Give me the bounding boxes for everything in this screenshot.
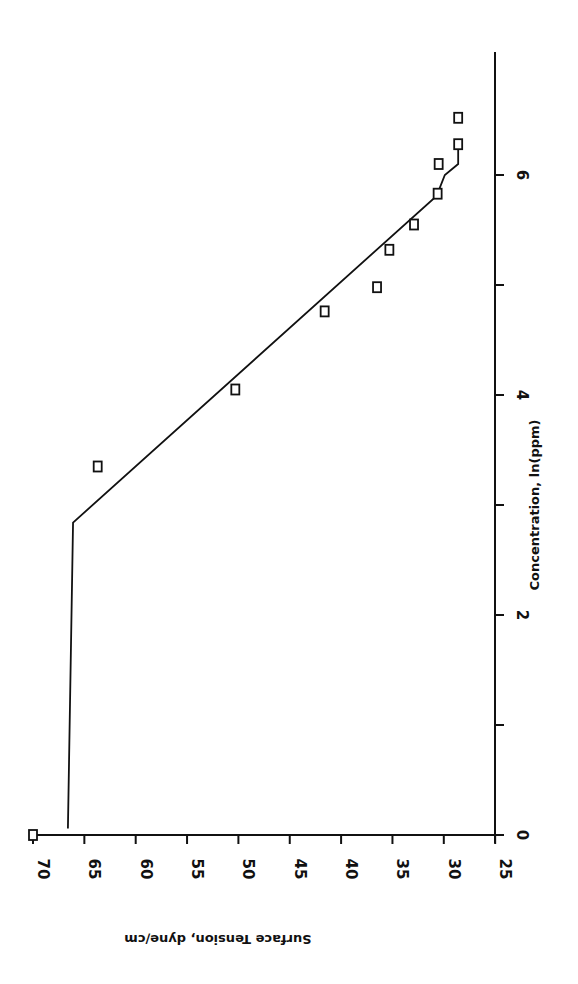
tension-tick-label: 60: [137, 859, 155, 880]
data-marker-square: [321, 306, 329, 316]
data-marker-square: [231, 385, 239, 395]
data-marker-square: [29, 830, 37, 840]
data-marker-square: [434, 189, 442, 199]
concentration-tick-label: 6: [513, 170, 531, 180]
data-marker-square: [94, 462, 102, 472]
tension-tick-label: 45: [291, 859, 309, 880]
tension-tick-label: 50: [239, 859, 257, 880]
fit-line: [68, 144, 458, 828]
tension-tick-label: 55: [188, 859, 206, 880]
tension-tick-label: 65: [85, 859, 103, 880]
data-markers: [29, 113, 462, 840]
tension-tick-label: 70: [34, 859, 52, 880]
axes: [33, 52, 504, 844]
data-marker-square: [410, 220, 418, 230]
fit-polyline: [68, 144, 458, 828]
data-marker-square: [454, 139, 462, 149]
data-marker-square: [385, 245, 393, 255]
concentration-tick-label: 2: [513, 610, 531, 620]
tension-tick-label: 40: [342, 859, 360, 880]
axis-labels: 706560555045403530250246Concentration, l…: [34, 170, 542, 947]
tension-tick-label: 35: [393, 859, 411, 880]
tension-tick-label: 30: [445, 859, 463, 880]
y-axis-title: Surface Tension, dyne/cm: [124, 932, 311, 947]
data-marker-square: [435, 159, 443, 169]
surface-tension-chart: 706560555045403530250246Concentration, l…: [0, 0, 578, 984]
concentration-tick-label: 0: [513, 830, 531, 840]
concentration-tick-label: 4: [513, 390, 531, 400]
x-axis-title: Concentration, ln(ppm): [527, 420, 542, 591]
tension-tick-label: 25: [496, 859, 514, 880]
data-marker-square: [373, 282, 381, 292]
data-marker-square: [454, 113, 462, 123]
